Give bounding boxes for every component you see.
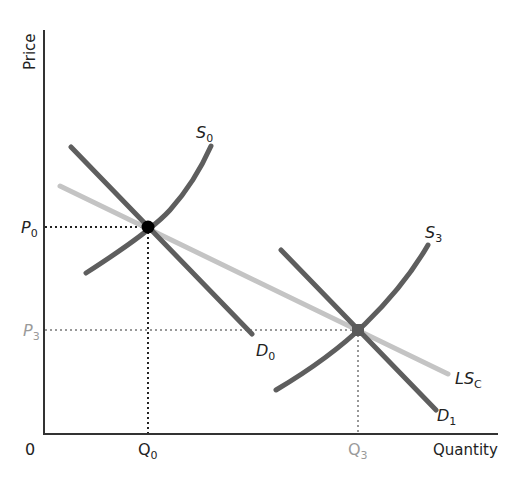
q3-label: Q3 xyxy=(348,440,368,462)
y-axis-title: Price xyxy=(21,33,39,70)
d0-curve xyxy=(71,147,252,334)
lsc-label: LSC xyxy=(455,369,482,391)
d1-label: D1 xyxy=(437,406,456,428)
d0-label: D0 xyxy=(256,341,275,363)
supply-demand-diagram: Price Quantity 0 S0 D0 S3 D1 LSC P0 P3 Q… xyxy=(0,0,520,478)
equilibrium-point-0 xyxy=(142,221,155,234)
lsc-curve xyxy=(60,186,448,374)
p0-label: P0 xyxy=(21,218,38,240)
equilibrium-point-3 xyxy=(352,324,364,336)
x-axis-title: Quantity xyxy=(433,441,498,459)
p3-label: P3 xyxy=(23,321,40,343)
q0-label: Q0 xyxy=(138,440,158,462)
s0-label: S0 xyxy=(196,123,213,145)
s3-label: S3 xyxy=(425,223,442,245)
origin-label: 0 xyxy=(25,440,35,459)
